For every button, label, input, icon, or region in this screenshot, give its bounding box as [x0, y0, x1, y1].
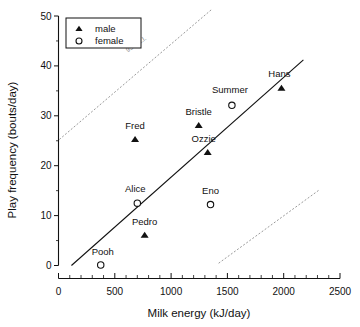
- data-points-group: FredPedroBristleOzzieHansPoohAliceEnoSum…: [92, 68, 291, 268]
- x-tick-label: 0: [56, 286, 62, 297]
- y-tick-label: 40: [40, 60, 52, 71]
- female-marker: [207, 201, 213, 207]
- scatter-plot-figure: 01020304050 Play frequency (bouts/day) 0…: [0, 0, 360, 327]
- legend-label-male: male: [95, 23, 116, 34]
- female-marker: [98, 262, 104, 268]
- data-point: Ozzie: [192, 133, 216, 155]
- x-tick-label: 1000: [160, 286, 183, 297]
- data-point: Pooh: [92, 246, 114, 268]
- data-point: Fred: [125, 120, 145, 142]
- data-point-label: Pedro: [132, 216, 157, 227]
- y-axis: 01020304050 Play frequency (bouts/day): [6, 11, 59, 272]
- data-point-label: Summer: [212, 84, 248, 95]
- x-tick-label: 1500: [216, 286, 239, 297]
- chart-legend: malefemale: [66, 18, 141, 48]
- data-point: Eno: [202, 185, 219, 208]
- male-marker: [131, 136, 139, 142]
- regression-line: [71, 60, 303, 266]
- x-axis-title: Milk energy (kJ/day): [148, 307, 251, 319]
- y-axis-ticks: [54, 16, 59, 266]
- data-point-label: Eno: [202, 185, 219, 196]
- legend-label-female: female: [95, 35, 124, 46]
- y-tick-label: 0: [46, 260, 52, 271]
- x-axis: 05001000150020002500 Milk energy (kJ/day…: [56, 273, 352, 319]
- y-tick-label: 30: [40, 110, 52, 121]
- data-point-label: Fred: [125, 120, 145, 131]
- regression-line-group: [71, 60, 303, 266]
- legend-female-marker: [76, 38, 82, 44]
- x-axis-ticks: [59, 273, 341, 279]
- data-point: Pedro: [132, 216, 157, 238]
- data-point-label: Hans: [268, 68, 290, 79]
- lower-95-cl: [219, 189, 320, 263]
- y-tick-label: 10: [40, 210, 52, 221]
- x-tick-label: 2000: [273, 286, 296, 297]
- data-point: Bristle: [185, 106, 211, 128]
- male-marker: [195, 122, 203, 128]
- data-point-label: Ozzie: [192, 133, 216, 144]
- y-axis-tick-labels: 01020304050: [40, 11, 52, 272]
- female-marker: [134, 200, 140, 206]
- y-tick-label: 20: [40, 160, 52, 171]
- chart-canvas: 01020304050 Play frequency (bouts/day) 0…: [0, 0, 360, 327]
- x-axis-tick-labels: 05001000150020002500: [56, 286, 352, 297]
- data-point-label: Alice: [125, 183, 146, 194]
- data-point: Summer: [212, 84, 248, 108]
- x-tick-label: 500: [106, 286, 123, 297]
- male-marker: [204, 149, 212, 155]
- x-tick-label: 2500: [329, 286, 352, 297]
- female-marker: [229, 102, 235, 108]
- y-axis-title: Play frequency (bouts/day): [6, 81, 18, 218]
- y-tick-label: 50: [40, 11, 52, 22]
- data-point-label: Pooh: [92, 246, 114, 257]
- male-marker: [141, 232, 149, 238]
- male-marker: [277, 85, 285, 91]
- data-point-label: Bristle: [185, 106, 211, 117]
